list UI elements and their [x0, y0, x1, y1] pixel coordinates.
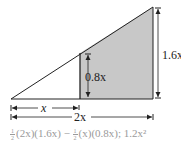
fraction-half-1: 1 2: [10, 128, 15, 141]
area-diagram: 0.8x 1.6x x 2x: [0, 0, 181, 146]
shaded-region: [80, 7, 153, 99]
small-base-label: x: [40, 101, 47, 115]
large-height-label: 1.6x: [162, 48, 181, 62]
area-formula: 1 2 (2x)(1.6x) − 1 2 (x)(0.8x); 1.2x²: [10, 127, 181, 141]
large-base-label: 2x: [74, 110, 86, 124]
formula-part-1: (2x)(1.6x) −: [16, 127, 73, 139]
small-height-label: 0.8x: [85, 70, 106, 84]
formula-part-2: (x)(0.8x); 1.2x²: [79, 127, 147, 139]
fraction-half-2: 1 2: [73, 128, 78, 141]
